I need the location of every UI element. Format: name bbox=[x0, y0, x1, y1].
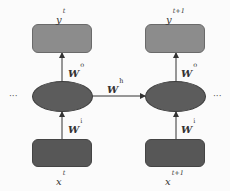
output-box-t1 bbox=[145, 24, 205, 53]
input-box-t bbox=[32, 139, 92, 167]
weight-label-output-t1: Wo bbox=[181, 64, 197, 80]
weight-label-input-t1: Wi bbox=[181, 120, 195, 136]
output-label-t1: yt+1 bbox=[166, 10, 185, 26]
input-label-t1: xt+1 bbox=[165, 172, 184, 188]
input-label-t: xt bbox=[56, 172, 65, 188]
hidden-node-t bbox=[32, 81, 93, 112]
ellipsis-left: ··· bbox=[9, 92, 18, 101]
output-box-t bbox=[32, 24, 92, 53]
weight-label-output-t: Wo bbox=[68, 64, 84, 80]
ellipsis-right: ··· bbox=[213, 92, 222, 101]
weight-label-input-t: Wi bbox=[68, 120, 82, 136]
weight-label-recurrent: Wh bbox=[107, 80, 123, 96]
rnn-unrolled-diagram: yt yt+1 xt xt+1 Wo Wo Wi Wi Wh ··· ··· bbox=[0, 0, 230, 191]
input-box-t1 bbox=[145, 139, 205, 167]
hidden-node-t1 bbox=[145, 81, 206, 112]
output-label-t: yt bbox=[56, 10, 65, 26]
